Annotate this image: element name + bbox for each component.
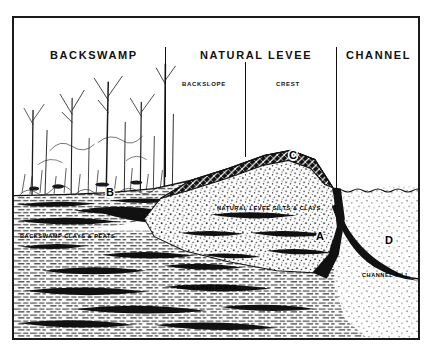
unit-label-channel-fill: CHANNEL FILL [362, 272, 409, 278]
zone-title-channel: CHANNEL [346, 49, 411, 61]
levee-channel-divider [336, 47, 337, 197]
figure-frame: BACKSWAMP NATURAL LEVEE CHANNEL BACKSLOP… [12, 16, 420, 340]
unit-label-natural-levee-silts-clays: NATURAL LEVEE SILTS & CLAYS [217, 205, 321, 211]
unit-label-backswamp-clays-peats: BACKSWAMP CLAYS & PEATS [20, 233, 115, 239]
backswamp-levee-divider [165, 47, 166, 177]
marker-a: A [316, 230, 324, 242]
unit-label-pre-levee-clays: PRE-LEVEE CLAYS [177, 284, 237, 290]
backswamp-vegetation-sketch [14, 18, 418, 338]
subzone-title-crest: CREST [276, 81, 300, 87]
marker-d: D [385, 234, 393, 246]
marker-c: C [289, 149, 297, 161]
zone-title-backswamp: BACKSWAMP [50, 49, 138, 61]
zone-title-natural-levee: NATURAL LEVEE [200, 49, 312, 61]
marker-b: B [106, 186, 114, 198]
subzone-title-backslope: BACKSLOPE [182, 81, 226, 87]
backslope-crest-divider [245, 62, 246, 157]
figure-canvas: BACKSWAMP NATURAL LEVEE CHANNEL BACKSLOP… [0, 0, 432, 358]
